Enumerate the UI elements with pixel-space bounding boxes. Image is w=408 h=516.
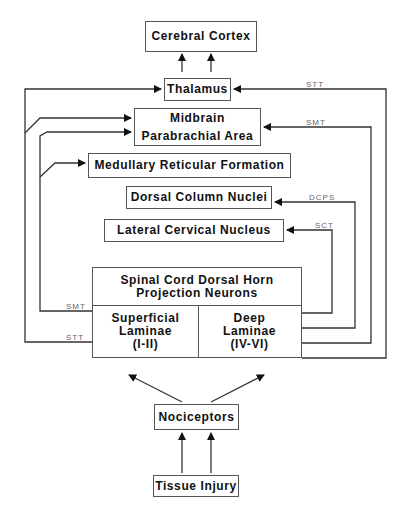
- nociceptors-node: Nociceptors: [154, 404, 239, 430]
- stt-left-label: STT: [66, 333, 84, 342]
- smt-left-label: SMT: [66, 302, 86, 311]
- superficial-laminae: Superficial Laminae (I-II): [93, 305, 199, 357]
- sct-label: SCT: [315, 221, 334, 230]
- tissue-injury-node: Tissue Injury: [153, 475, 239, 497]
- midbrain-label: Midbrain: [170, 112, 225, 125]
- lateral-cervical-node: Lateral Cervical Nucleus: [104, 219, 284, 242]
- thalamus-node: Thalamus: [164, 78, 231, 101]
- cerebral-cortex-node: Cerebral Cortex: [145, 21, 257, 52]
- spinal-cord-box: Spinal Cord Dorsal Horn Projection Neuro…: [92, 267, 302, 358]
- parabrachial-label: Parabrachial Area: [142, 130, 254, 143]
- midbrain-parabrachial-node: Midbrain Parabrachial Area: [134, 108, 261, 146]
- deep-laminae: Deep Laminae (IV-VI): [198, 305, 301, 357]
- medullary-reticular-node: Medullary Reticular Formation: [88, 153, 291, 178]
- dorsal-column-node: Dorsal Column Nuclei: [126, 186, 272, 209]
- stt-right-label: STT: [306, 80, 324, 89]
- spinal-header: Spinal Cord Dorsal Horn Projection Neuro…: [93, 268, 301, 306]
- smt-right-label: SMT: [306, 118, 326, 127]
- dcps-label: DCPS: [309, 193, 335, 202]
